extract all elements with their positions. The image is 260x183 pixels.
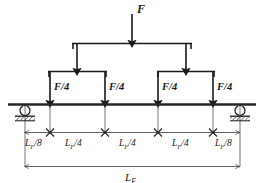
point-load-label-1: F/4 (54, 82, 69, 93)
segment-label-2: LF/4 (65, 139, 82, 150)
point-load-arrows (50, 72, 213, 102)
segment-label-4: LF/4 (172, 139, 189, 150)
point-load-label-3: F/4 (162, 82, 177, 93)
segment-label-4-rest: /4 (181, 138, 188, 148)
segment-label-1-rest: /8 (34, 138, 41, 148)
segment-label-3: LF/4 (119, 139, 136, 150)
extension-lines (25, 106, 240, 166)
segment-label-1: LF/8 (25, 139, 42, 150)
total-span-label: LF (125, 172, 136, 183)
point-load-label-2: F/4 (109, 82, 124, 93)
transfer-load-arrows (77, 44, 186, 70)
top-spreader-beam (72, 44, 192, 50)
total-span-label-sub: F (131, 177, 136, 183)
segment-label-5-rest: /8 (224, 138, 231, 148)
beam-load-diagram: F F/4 F/4 F/4 F/4 LF/8 LF/4 LF/4 LF/4 LF… (0, 0, 260, 183)
segment-label-2-rest: /4 (74, 138, 81, 148)
lower-right-spreader-beam (157, 72, 215, 78)
applied-load-label: F (137, 3, 145, 15)
segment-label-3-rest: /4 (128, 138, 135, 148)
segment-label-5: LF/8 (215, 139, 232, 150)
lower-left-spreader-beam (48, 72, 107, 78)
segment-dimension-line (25, 129, 240, 137)
point-load-label-4: F/4 (217, 82, 232, 93)
